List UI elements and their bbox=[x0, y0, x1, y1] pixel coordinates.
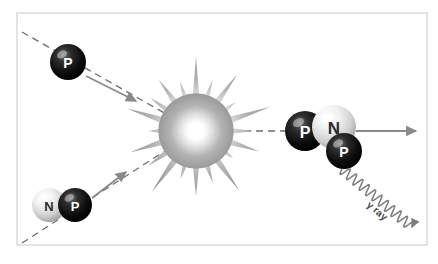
diagram-canvas: PNPPNP γ ray bbox=[0, 0, 438, 264]
fusion-reaction-figure: PNPPNP γ ray bbox=[0, 0, 438, 264]
burst-core-glow bbox=[158, 93, 233, 168]
momentum-arrows bbox=[86, 76, 416, 198]
product-helium-3-nucleon: P bbox=[326, 133, 362, 169]
incoming-proton: P bbox=[50, 44, 86, 80]
fusion-burst bbox=[127, 57, 270, 196]
proton-sphere bbox=[50, 44, 86, 80]
arrow-deuteron-inbound bbox=[92, 172, 126, 198]
incoming-deuteron-nucleon: P bbox=[58, 188, 92, 222]
proton-sphere bbox=[326, 133, 362, 169]
gamma-ray-wave bbox=[340, 169, 414, 227]
gamma-ray-label: γ ray bbox=[365, 199, 390, 223]
arrow-proton-inbound bbox=[86, 76, 136, 101]
proton-sphere bbox=[58, 188, 92, 222]
gamma-ray: γ ray bbox=[340, 169, 414, 227]
